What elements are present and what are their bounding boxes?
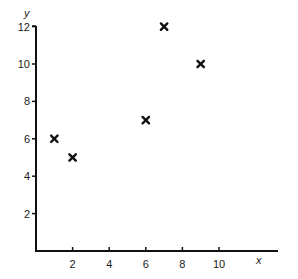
y-tick-label: 4 (24, 170, 30, 182)
y-tick-label: 2 (24, 208, 30, 220)
x-tick-label: 4 (106, 258, 112, 270)
data-points (51, 23, 204, 160)
x-tick-label: 6 (143, 258, 149, 270)
y-tick-label: 12 (18, 21, 30, 33)
y-tick-label: 8 (24, 95, 30, 107)
axes (32, 26, 278, 252)
x-tick-label: 8 (179, 258, 185, 270)
y-tick-label: 10 (18, 58, 30, 70)
data-point-x-marker-icon (161, 23, 167, 29)
y-axis-label: y (23, 7, 31, 19)
x-tick-label: 10 (213, 258, 225, 270)
data-point-x-marker-icon (143, 117, 149, 123)
x-axis-label: x (255, 254, 262, 266)
scatter-plot: 24681024681012 x y (0, 0, 298, 279)
data-point-x-marker-icon (51, 136, 57, 142)
y-tick-label: 6 (24, 133, 30, 145)
x-tick-label: 2 (70, 258, 76, 270)
data-point-x-marker-icon (198, 61, 204, 67)
axis-ticks: 24681024681012 (18, 21, 225, 270)
data-point-x-marker-icon (69, 154, 75, 160)
